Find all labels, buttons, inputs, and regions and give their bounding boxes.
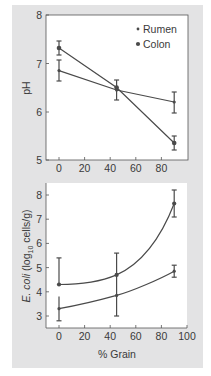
ecoli-ytick: 7 — [36, 213, 42, 225]
ph-xtick: 60 — [130, 162, 142, 174]
ph-xtick: 0 — [56, 162, 62, 174]
ecoli-ytick: 3 — [36, 310, 42, 322]
ph-ytick: 7 — [36, 58, 42, 70]
ecoli-xtick: 60 — [130, 330, 142, 342]
ph-ytick: 5 — [36, 154, 42, 166]
ecoli-ytick: 5 — [36, 262, 42, 274]
colon-marker-icon — [136, 42, 140, 46]
ecoli-chart: 3 4 5 6 7 8 E. coli (log10 cells/g) 0 20… — [20, 183, 196, 360]
ecoli-x-label: % Grain — [98, 348, 136, 360]
ecoli-xtick: 40 — [104, 330, 116, 342]
ph-ytick: 8 — [36, 9, 42, 21]
ecoli-x-axis: 0 20 40 60 80 100 % Grain — [56, 325, 196, 360]
ph-xtick: 40 — [104, 162, 116, 174]
ecoli-ytick: 8 — [36, 189, 42, 201]
ecoli-ytick: 6 — [36, 237, 42, 249]
ph-xtick: 20 — [79, 162, 91, 174]
ph-xtick: 80 — [156, 162, 168, 174]
ecoli-y-axis: 3 4 5 6 7 8 E. coli (log10 cells/g) — [20, 189, 49, 322]
ecoli-y-label: E. coli (log10 cells/g) — [20, 209, 34, 302]
ecoli-xtick: 0 — [56, 330, 62, 342]
ph-y-axis: 5 6 7 8 pH — [20, 9, 49, 166]
ecoli-xtick: 100 — [178, 330, 196, 342]
figure: 5 6 7 8 pH 0 20 40 60 80 — [0, 0, 211, 376]
ecoli-ytick: 4 — [36, 286, 42, 298]
ecoli-xtick: 20 — [79, 330, 91, 342]
legend-colon: Colon — [143, 38, 171, 50]
ph-ytick: 6 — [36, 106, 42, 118]
ph-chart: 5 6 7 8 pH 0 20 40 60 80 — [20, 9, 188, 174]
rumen-marker-icon — [137, 28, 140, 31]
ecoli-xtick: 80 — [156, 330, 168, 342]
ph-y-label: pH — [20, 81, 32, 94]
legend-rumen: Rumen — [143, 23, 177, 35]
